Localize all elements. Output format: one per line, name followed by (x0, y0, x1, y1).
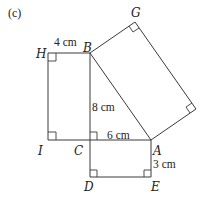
right-angle-g (129, 26, 139, 32)
point-label-a: A (152, 144, 162, 158)
dimension-bc: 8 cm (92, 101, 115, 113)
hypotenuse-ba (90, 53, 151, 140)
point-label-g: G (131, 6, 141, 20)
figure-tag: (c) (8, 6, 21, 20)
rectangle-caed (90, 140, 151, 177)
dimension-hb: 4 cm (54, 36, 77, 48)
rectangle-hbci (48, 53, 90, 140)
right-angle-4th (186, 103, 192, 113)
point-label-i: I (37, 144, 43, 158)
right-angle-h (48, 53, 56, 61)
rectangle-on-ba (90, 22, 196, 140)
dimension-ca: 6 cm (107, 129, 130, 141)
dimension-ae: 3 cm (153, 158, 176, 170)
point-label-c: C (74, 144, 83, 158)
right-angle-e (144, 170, 151, 177)
geometry-figure: (c) H B G I C A D E 4 cm 8 cm 6 cm 3 cm (0, 0, 204, 202)
point-label-d: D (83, 180, 94, 194)
point-label-b: B (82, 41, 92, 55)
right-angle-c (90, 132, 97, 140)
right-angle-d (90, 170, 97, 177)
point-label-e: E (150, 180, 160, 194)
point-label-h: H (35, 47, 47, 61)
right-angle-i (48, 132, 56, 140)
